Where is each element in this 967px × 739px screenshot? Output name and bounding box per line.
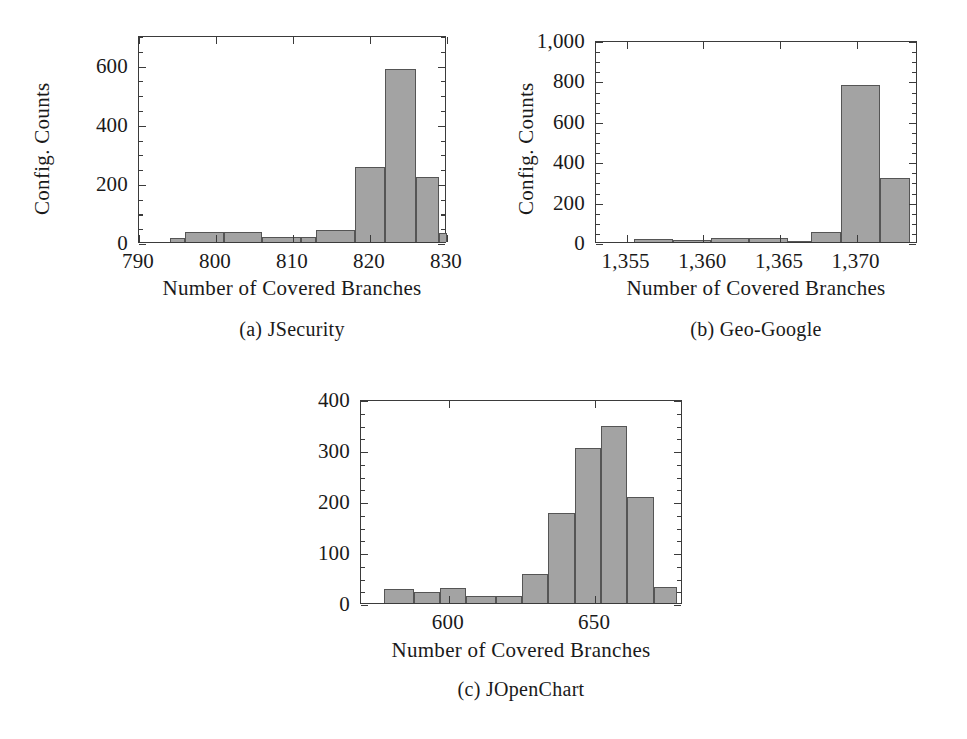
axis-tick: [361, 478, 365, 479]
axis-tick: [441, 96, 445, 97]
histogram-bar: [384, 589, 413, 603]
x-tick-label: 1,365: [755, 249, 803, 274]
histogram-bar: [385, 69, 416, 242]
axis-tick: [912, 62, 916, 63]
axis-tick: [139, 244, 146, 245]
axis-tick: [909, 42, 916, 43]
axis-tick: [449, 401, 450, 408]
panel-jsecurity: Config. Counts 0200400600 79080081082083…: [0, 0, 470, 360]
bar-series-geo-google: [596, 42, 916, 242]
x-tick-label: 810: [276, 249, 308, 274]
axis-tick: [139, 96, 143, 97]
axis-tick: [596, 72, 600, 73]
axis-tick: [441, 214, 445, 215]
axis-tick: [441, 52, 445, 53]
axis-tick: [139, 155, 143, 156]
histogram-bar: [575, 448, 601, 603]
y-tick-label: 100: [318, 541, 350, 566]
axis-tick: [780, 42, 781, 49]
histogram-bar: [788, 241, 811, 243]
x-tick-label: 600: [432, 610, 464, 635]
axis-tick: [361, 554, 368, 555]
bar-series-jsecurity: [139, 37, 445, 242]
plot-area-jsecurity: [138, 36, 446, 243]
axis-tick: [912, 113, 916, 114]
histogram-bar: [841, 85, 879, 242]
axis-tick: [674, 452, 681, 453]
histogram-bar: [170, 238, 185, 242]
axis-tick: [596, 133, 600, 134]
x-tick-label: 1,355: [602, 249, 650, 274]
histogram-bar: [811, 232, 842, 242]
axis-tick: [441, 37, 445, 38]
histogram-bar: [749, 238, 787, 242]
axis-tick: [139, 235, 140, 242]
x-tick-label: 830: [430, 249, 462, 274]
axis-tick: [596, 244, 603, 245]
histogram-bar: [496, 596, 522, 603]
histogram-bar: [316, 230, 355, 242]
plot-area-geo-google: [595, 41, 917, 243]
multi-panel-histogram-figure: Config. Counts 0200400600 79080081082083…: [0, 0, 967, 739]
axis-tick: [596, 123, 603, 124]
axis-tick: [361, 567, 365, 568]
axis-tick: [912, 72, 916, 73]
axis-tick: [293, 235, 294, 242]
axis-tick: [438, 185, 445, 186]
axis-tick: [596, 194, 600, 195]
axis-tick: [596, 224, 600, 225]
axis-tick: [596, 42, 603, 43]
axis-tick: [912, 224, 916, 225]
axis-tick: [909, 82, 916, 83]
y-tick-label: 200: [553, 190, 585, 215]
axis-tick: [912, 143, 916, 144]
axis-tick: [447, 37, 448, 44]
axis-tick: [627, 235, 628, 242]
histogram-bar: [224, 232, 263, 242]
axis-tick: [596, 234, 600, 235]
axis-tick: [361, 580, 365, 581]
axis-tick: [139, 81, 143, 82]
y-axis-title-b: Config. Counts: [514, 82, 539, 215]
axis-tick: [857, 235, 858, 242]
axis-tick: [677, 529, 681, 530]
panel-jopenchart: Config. Counts 0100200300400 600650 Numb…: [0, 360, 967, 739]
axis-tick: [909, 204, 916, 205]
axis-tick: [912, 133, 916, 134]
axis-tick: [438, 244, 445, 245]
axis-tick: [627, 42, 628, 49]
axis-tick: [595, 596, 596, 603]
axis-tick: [857, 42, 858, 49]
histogram-bar: [416, 177, 439, 242]
axis-tick: [596, 62, 600, 63]
axis-tick: [677, 541, 681, 542]
axis-tick: [438, 67, 445, 68]
axis-tick: [361, 592, 365, 593]
axis-tick: [595, 401, 596, 408]
x-tick-label: 1,370: [832, 249, 880, 274]
histogram-bar: [601, 426, 627, 603]
axis-tick: [596, 82, 603, 83]
axis-tick: [909, 244, 916, 245]
axis-tick: [441, 155, 445, 156]
x-tick-label: 650: [578, 610, 610, 635]
axis-tick: [677, 567, 681, 568]
axis-tick: [139, 185, 146, 186]
bar-series-jopenchart: [361, 401, 681, 603]
histogram-bar: [634, 239, 672, 242]
axis-tick: [441, 111, 445, 112]
axis-tick: [677, 478, 681, 479]
axis-tick: [361, 427, 365, 428]
axis-tick: [361, 503, 368, 504]
axis-tick: [703, 42, 704, 49]
y-tick-label: 200: [96, 171, 128, 196]
axis-tick: [912, 183, 916, 184]
x-tick-label: 800: [199, 249, 231, 274]
y-tick-label: 600: [96, 53, 128, 78]
axis-tick: [596, 153, 600, 154]
axis-tick: [139, 37, 140, 44]
x-tick-label: 1,360: [678, 249, 726, 274]
axis-tick: [912, 194, 916, 195]
axis-tick: [677, 439, 681, 440]
y-tick-label: 200: [318, 490, 350, 515]
